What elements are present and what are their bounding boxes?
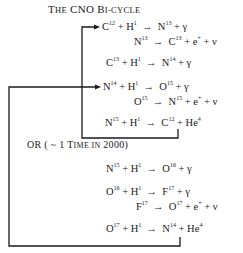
reaction-c13-proton: C13 + H1 → N14 + γ <box>106 57 191 69</box>
reaction-o15-decay: O15 → N15 + e+ + ν <box>134 96 217 108</box>
diagram-title: THE CNO BI-CYCLE <box>48 3 140 15</box>
reaction-n15-proton-alpha: N15 + H1 → C12 + He4 <box>105 117 201 129</box>
reaction-n15-proton-gamma: N15 + H1 → O16 + γ <box>106 163 192 175</box>
reaction-c12-proton: C12 + H1 → N13 + γ <box>102 21 187 33</box>
branch-label: OR ( ~ 1 TIME IN 2000) <box>27 139 128 150</box>
reaction-f17-decay: F17 → O17 + e+ + ν <box>136 201 218 213</box>
reaction-n13-decay: N13 → C13 + e+ + ν <box>134 36 217 48</box>
arrowhead-icon <box>95 85 101 90</box>
reaction-o16-proton: O16 + H1 → F17 + γ <box>106 186 190 198</box>
arrowhead-icon <box>94 25 100 30</box>
reaction-o17-proton-alpha: O17 + H1 → N14 + He4 <box>106 223 202 235</box>
reaction-n14-proton: N14 + H1 → O15 + γ <box>103 81 189 93</box>
